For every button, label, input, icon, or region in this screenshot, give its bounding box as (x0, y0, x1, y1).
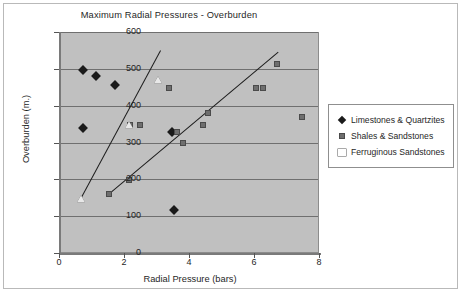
data-point-diamond-0-3 (78, 123, 88, 133)
x-tick-mark-6 (254, 253, 255, 258)
x-tick-mark-0 (59, 253, 60, 258)
gridline-y-400 (60, 106, 318, 107)
data-point-square-1-7 (137, 122, 143, 128)
x-tick-mark-2 (124, 253, 125, 258)
data-point-square-1-3 (260, 85, 266, 91)
data-point-diamond-0-5 (169, 205, 179, 215)
scatter-chart: Maximum Radial Pressures - Overburden 01… (4, 4, 459, 290)
y-tick-label-100: 100 (101, 210, 141, 220)
y-tick-mark-400 (54, 106, 59, 107)
x-tick-label-4: 4 (174, 257, 204, 267)
data-point-square-1-4 (205, 110, 211, 116)
gridline-y-200 (60, 179, 318, 180)
legend-label-0: Limestones & Quartzites (348, 115, 445, 125)
legend-label-2: Ferruginous Sandstones (348, 147, 445, 157)
gridline-y-500 (60, 69, 318, 70)
data-point-square-1-8 (200, 122, 206, 128)
data-point-diamond-0-0 (78, 65, 88, 75)
x-axis-title: Radial Pressure (bars) (59, 274, 321, 284)
x-tick-mark-4 (189, 253, 190, 258)
x-axis-line (59, 253, 321, 255)
diamond-icon (335, 117, 348, 123)
data-point-triangle-2-1 (125, 122, 133, 129)
data-point-diamond-0-1 (91, 71, 101, 81)
plot-area (59, 32, 319, 253)
chart-title: Maximum Radial Pressures - Overburden (4, 10, 334, 20)
y-tick-mark-300 (54, 143, 59, 144)
gridline-y-300 (60, 143, 318, 144)
data-point-square-1-10 (180, 140, 186, 146)
data-point-square-1-12 (106, 191, 112, 197)
data-point-triangle-2-0 (154, 76, 162, 83)
triangle-icon (335, 149, 348, 156)
y-tick-label-0: 0 (101, 247, 141, 257)
gridline-y-600 (60, 32, 318, 33)
square-icon (335, 133, 348, 139)
x-tick-mark-8 (319, 253, 320, 258)
legend-label-1: Shales & Sandstones (348, 131, 433, 141)
x-tick-label-2: 2 (109, 257, 139, 267)
y-tick-label-200: 200 (101, 173, 141, 183)
y-tick-mark-500 (54, 69, 59, 70)
data-point-square-1-2 (253, 85, 259, 91)
y-tick-label-500: 500 (101, 63, 141, 73)
y-tick-label-400: 400 (101, 100, 141, 110)
legend-item-2[interactable]: Ferruginous Sandstones (335, 144, 448, 160)
legend-item-1[interactable]: Shales & Sandstones (335, 128, 448, 144)
legend-item-0[interactable]: Limestones & Quartzites (335, 112, 448, 128)
x-tick-label-6: 6 (239, 257, 269, 267)
y-tick-mark-200 (54, 179, 59, 180)
x-tick-label-8: 8 (304, 257, 334, 267)
y-tick-mark-600 (54, 32, 59, 33)
y-tick-mark-100 (54, 216, 59, 217)
data-point-square-1-5 (299, 114, 305, 120)
gridline-y-100 (60, 216, 318, 217)
y-tick-label-600: 600 (101, 26, 141, 36)
y-axis-line (59, 32, 61, 254)
data-point-square-1-9 (174, 129, 180, 135)
data-point-square-1-1 (166, 85, 172, 91)
data-point-diamond-0-2 (110, 80, 120, 90)
data-point-triangle-2-2 (77, 195, 85, 202)
data-point-square-1-0 (274, 61, 280, 67)
y-axis-title: Overburden (m.) (21, 19, 31, 239)
y-tick-label-300: 300 (101, 137, 141, 147)
chart-frame: Maximum Radial Pressures - Overburden 01… (3, 3, 458, 289)
x-tick-label-0: 0 (44, 257, 74, 267)
chart-legend: Limestones & QuartzitesShales & Sandston… (328, 104, 454, 168)
